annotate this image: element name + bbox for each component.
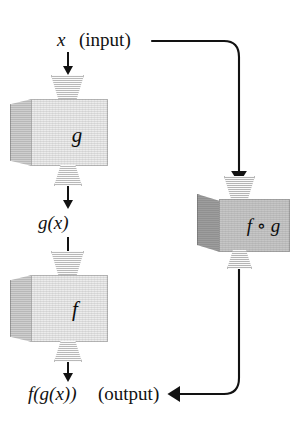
wire-fog-to-output <box>175 262 239 394</box>
machine-f-outlet-funnel <box>54 341 82 362</box>
intermediate-label: g(x) <box>38 213 69 232</box>
machine-g-intake-funnel <box>51 75 84 101</box>
machine-g: g <box>10 99 108 166</box>
machine-f: f <box>10 275 108 342</box>
machine-fog-label: f ∘ g <box>197 214 297 237</box>
machine-g-outlet-funnel <box>54 165 82 186</box>
input-variable-label: x <box>57 30 65 49</box>
machine-g-label: g <box>10 123 126 148</box>
machine-fog: f ∘ g <box>197 194 290 252</box>
input-word-label: (input) <box>79 30 131 49</box>
output-word-label: (output) <box>98 384 159 403</box>
machine-f-intake-funnel <box>51 251 84 277</box>
machine-fog-outlet-funnel <box>227 250 252 269</box>
arrow-f-to-output-head <box>63 373 73 382</box>
arrow-g-to-gx-head <box>63 200 73 209</box>
wire-input-to-fog <box>152 41 239 176</box>
arrow-input-to-g-head <box>63 66 73 75</box>
diagram-canvas: x (input) g g(x) f f(g(x)) (output) f ∘ … <box>0 0 297 427</box>
machine-f-label: f <box>10 297 124 322</box>
output-expression-label: f(g(x)) <box>28 384 77 403</box>
